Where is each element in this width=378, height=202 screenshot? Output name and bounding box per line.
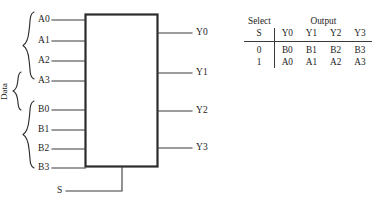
pin-label-b0: B0 [38,105,49,115]
pin-label-a1: A1 [38,36,50,46]
row-1-y2: A2 [324,57,348,69]
pin-label-b2: B2 [38,144,49,154]
truth-table-group-header-row: Select Output [244,16,372,28]
pin-label-a2: A2 [38,56,50,66]
select-wire [66,167,122,192]
pin-label-a0: A0 [38,15,50,25]
pin-label-y3: Y3 [196,143,208,153]
column-header-y0: Y0 [275,28,300,40]
table-row: 1 A0 A1 A2 A3 [244,57,372,69]
column-header-y3: Y3 [348,28,372,40]
pin-label-select: S [57,186,62,196]
group-header-output: Output [275,16,372,28]
group-header-select: Select [244,16,275,28]
row-0-select: 0 [244,45,275,57]
group-label-data: Data [0,83,9,100]
pin-label-b3: B3 [38,163,49,173]
row-1-select: 1 [244,57,275,69]
truth-table-grid: Select Output S Y0 Y1 Y2 Y3 [244,16,372,68]
pin-label-y2: Y2 [196,106,208,116]
column-header-s: S [244,28,275,40]
row-0-y1: B1 [299,45,323,57]
logic-diagram-figure: A0 A1 A2 A3 B0 B1 B2 B3 Y0 Y1 Y2 Y3 S Da… [0,0,378,202]
row-0-y3: B3 [348,45,372,57]
row-0-y2: B2 [324,45,348,57]
row-1-y3: A3 [348,57,372,69]
truth-table-column-header-row: S Y0 Y1 Y2 Y3 [244,28,372,40]
column-header-y1: Y1 [299,28,323,40]
brace-data-outer [13,72,21,110]
pin-label-y1: Y1 [196,68,208,78]
pin-label-b1: B1 [38,125,49,135]
truth-table: Select Output S Y0 Y1 Y2 Y3 [244,16,374,68]
pin-label-y0: Y0 [196,28,208,38]
pin-label-a3: A3 [38,76,50,86]
row-1-y0: A0 [275,57,300,69]
column-header-y2: Y2 [324,28,348,40]
row-1-y1: A1 [299,57,323,69]
brace-group-b [23,101,34,168]
brace-group-a [23,12,34,79]
table-row: 0 B0 B1 B2 B3 [244,45,372,57]
row-0-y0: B0 [275,45,300,57]
multiplexer-body [86,15,158,167]
